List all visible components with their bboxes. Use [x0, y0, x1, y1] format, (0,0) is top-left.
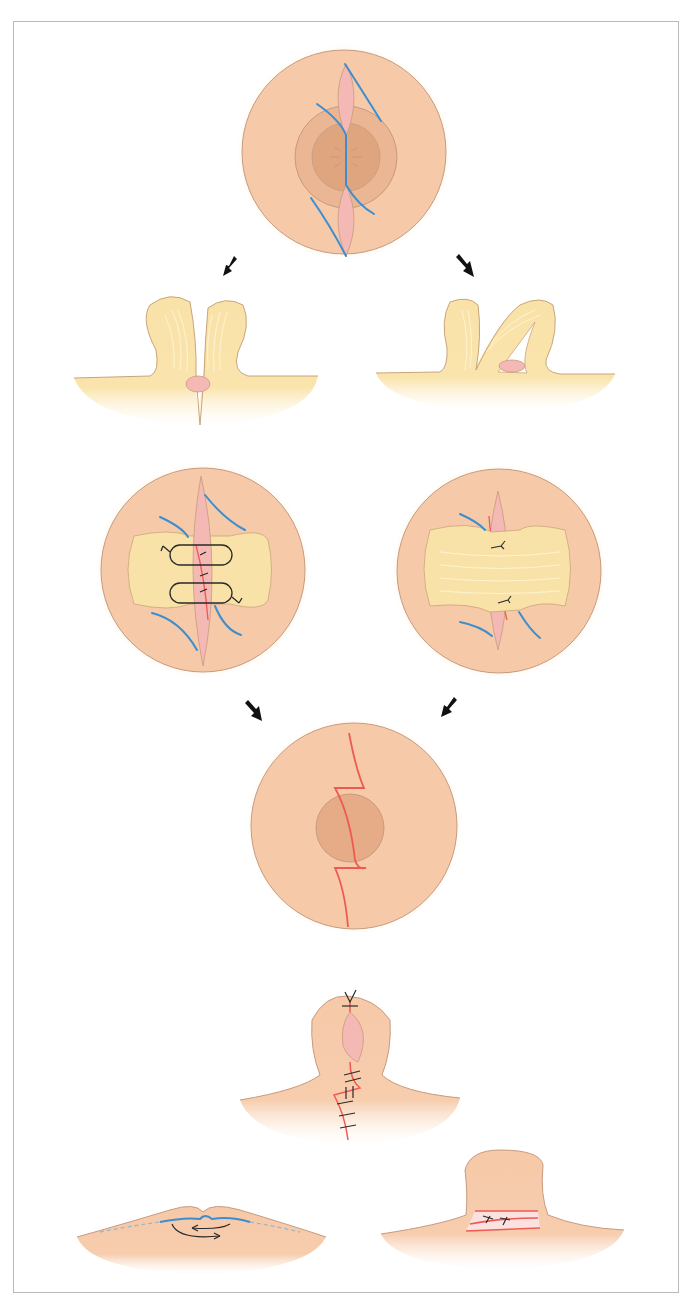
- arrow-down-left-2: [441, 697, 457, 717]
- panel-top-view-incisions: [236, 44, 452, 260]
- arrow-down-right-1: [456, 254, 474, 277]
- surgical-illustration: [0, 0, 688, 1299]
- panel-top-view-sutured-flaps: [95, 462, 311, 678]
- arrow-down-left-1: [223, 256, 237, 276]
- nipple-stub: [186, 376, 210, 392]
- panel-side-view-split-flaps: [74, 297, 318, 426]
- panel-side-view-crossed-flaps: [376, 299, 615, 412]
- arrow-down-right-2: [245, 700, 262, 721]
- panel-side-view-inverted-nipple: [77, 1206, 326, 1275]
- panel-side-view-everted-result: [240, 990, 460, 1145]
- panel-side-view-everted-band: [381, 1150, 624, 1270]
- panel-top-view-flap-bridge: [391, 463, 607, 679]
- nipple-stub: [499, 360, 525, 372]
- panel-top-view-zplasty-result: [246, 718, 462, 934]
